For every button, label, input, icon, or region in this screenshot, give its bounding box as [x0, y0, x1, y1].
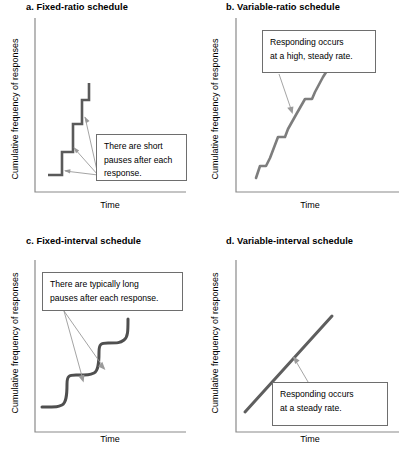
panel-a-plot — [0, 0, 199, 233]
panel-a-callout-line-1: There are short — [104, 140, 180, 154]
panel-c-callout: There are typically long pauses after ea… — [42, 272, 183, 311]
schedules-of-reinforcement-figure: a. Fixed-ratio schedule Cumulative frequ… — [0, 0, 399, 467]
panel-variable-interval: d. Variable-interval schedule Cumulative… — [200, 234, 399, 467]
panel-a-curve — [48, 83, 89, 175]
panel-c-callout-line-2: pauses after each response. — [50, 292, 176, 306]
panel-d-callout-line-2: at a steady rate. — [280, 402, 381, 416]
panel-b-callout-line-1: Responding occurs — [270, 36, 369, 50]
panel-c-callout-line-1: There are typically long — [50, 278, 176, 292]
panel-c-annotation-layer — [0, 234, 199, 467]
panel-fixed-ratio: a. Fixed-ratio schedule Cumulative frequ… — [0, 0, 199, 233]
panel-d-callout: Responding occurs at a steady rate. — [272, 382, 388, 426]
panel-b-callout: Responding occurs at a high, steady rate… — [262, 30, 376, 73]
panel-a-arrows — [65, 117, 98, 175]
panel-d-callout-line-1: Responding occurs — [280, 388, 381, 402]
panel-a-callout-line-2: pauses after each — [104, 154, 180, 168]
panel-d-plot — [200, 234, 399, 467]
panel-b-arrow — [279, 74, 293, 114]
panel-fixed-interval: c. Fixed-interval schedule Cumulative fr… — [0, 234, 199, 467]
panel-b-curve — [256, 66, 330, 178]
panel-c-arrow-group — [64, 311, 105, 382]
panel-a-callout: There are short pauses after each respon… — [96, 134, 187, 181]
panel-a-callout-line-3: response. — [104, 167, 180, 181]
panel-b-callout-line-2: at a high, steady rate. — [270, 50, 369, 64]
panel-variable-ratio: b. Variable-ratio schedule Cumulative fr… — [200, 0, 399, 233]
